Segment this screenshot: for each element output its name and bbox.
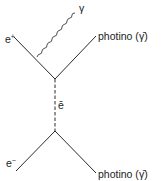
feynman-diagram: e+ γ photino (γ̄) ē e− photino (γ̄) (0, 0, 165, 181)
electron-line (16, 131, 55, 171)
electron-label: e− (6, 157, 16, 169)
photino-bottom-label: photino (γ̄) (98, 168, 148, 180)
positron-line (14, 37, 55, 79)
photon-wavy-line (37, 13, 75, 57)
positron-label: e+ (5, 33, 15, 45)
photino-bottom-line (55, 131, 96, 173)
selectron-label: ē (58, 99, 64, 111)
photon-label: γ (79, 2, 85, 14)
photino-top-line (55, 36, 96, 79)
photino-top-label: photino (γ̄) (98, 30, 148, 42)
